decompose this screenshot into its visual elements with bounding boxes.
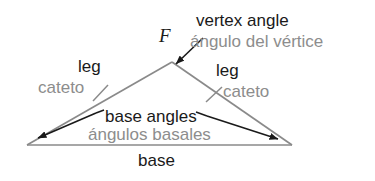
tick-mark-left-leg (93, 85, 108, 101)
base-angles-label-spanish: ángulos basales (88, 126, 211, 143)
base-angles-label-english: base angles (105, 108, 197, 125)
vertex-label-f: F (159, 26, 171, 45)
left-leg-label-english: leg (78, 58, 101, 75)
vertex-angle-label-english: vertex angle (196, 12, 289, 29)
base-label-english: base (138, 152, 175, 169)
vertex-angle-label-spanish: ángulo del vértice (190, 33, 323, 50)
left-leg-label-spanish: cateto (38, 79, 84, 96)
right-leg-label-spanish: cateto (223, 83, 269, 100)
isosceles-triangle-diagram: F vertex angle ángulo del vértice leg ca… (0, 0, 375, 181)
right-leg-label-english: leg (216, 62, 239, 79)
